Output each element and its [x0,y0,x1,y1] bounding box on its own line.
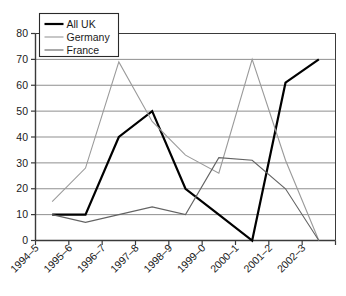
y-tick-label-70: 70 [16,53,28,65]
x-tick-label-3: 1997–8 [108,241,141,274]
x-tick-label-group-8: 2002–3 [274,241,307,274]
x-tick-label-group-7: 2001–2 [241,241,274,274]
x-tick-label-group-0: 1994–5 [8,241,41,274]
series-line-germany [52,59,319,240]
y-tick-label-30: 30 [16,157,28,169]
series-line-all-uk [52,59,319,240]
line-chart: 80706050403020100 1994–51995–61996–71997… [0,0,346,296]
x-axis-labels: 1994–51995–61996–71997–81998–91999–02000… [8,241,308,274]
x-tick-label-group-6: 2000–1 [208,241,241,274]
y-tick-label-10: 10 [16,208,28,220]
x-tick-label-group-5: 1999–0 [174,241,207,274]
y-tick-label-40: 40 [16,131,28,143]
x-tick-label-7: 2001–2 [241,241,274,274]
x-tick-label-group-3: 1997–8 [108,241,141,274]
y-tick-label-0: 0 [22,234,28,246]
y-tick-label-50: 50 [16,105,28,117]
x-tick-label-5: 1999–0 [174,241,207,274]
x-tick-label-0: 1994–5 [8,241,41,274]
legend-label-germany: Germany [67,31,111,43]
y-tick-label-60: 60 [16,79,28,91]
data-series-group [52,59,319,240]
x-tick-label-2: 1996–7 [74,241,107,274]
chart-canvas: 80706050403020100 1994–51995–61996–71997… [0,0,346,296]
y-axis-labels: 80706050403020100 [16,27,28,246]
y-tick-label-20: 20 [16,182,28,194]
x-tick-label-4: 1998–9 [141,241,174,274]
legend-label-france: France [67,44,100,56]
x-tick-label-group-2: 1996–7 [74,241,107,274]
x-tick-label-6: 2000–1 [208,241,241,274]
x-tick-label-8: 2002–3 [274,241,307,274]
x-tick-label-1: 1995–6 [41,241,74,274]
x-tick-label-group-1: 1995–6 [41,241,74,274]
legend-label-all-uk: All UK [67,18,96,30]
x-tick-label-group-4: 1998–9 [141,241,174,274]
chart-legend: All UKGermanyFrance [40,14,119,57]
y-tick-label-80: 80 [16,27,28,39]
gridlines-group [36,34,336,241]
